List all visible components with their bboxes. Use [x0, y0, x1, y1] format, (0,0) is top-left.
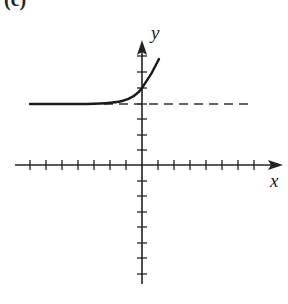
exponential-curve	[30, 59, 159, 104]
y-axis-label: y	[151, 22, 159, 44]
coordinate-plane	[0, 0, 288, 304]
x-axis-label: x	[270, 170, 278, 192]
x-axis	[15, 160, 276, 170]
